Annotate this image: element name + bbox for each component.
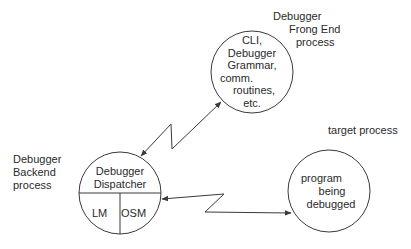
- frontend-line-comm: comm.: [212, 72, 292, 85]
- osm-label: OSM: [121, 207, 146, 220]
- frontend-label-line-1: Debugger: [273, 10, 353, 23]
- lm-label: LM: [92, 207, 107, 220]
- target-line-being: being: [299, 185, 363, 198]
- backend-target-connector: [162, 194, 291, 213]
- dispatcher-line-2: Dispatcher: [82, 178, 158, 191]
- dispatcher-text: Debugger Dispatcher: [82, 165, 158, 191]
- backend-label-line-3: process: [13, 179, 78, 192]
- frontend-line-cli: CLI,: [212, 34, 292, 47]
- backend-process-label: Debugger Backend process: [13, 153, 78, 192]
- backend-frontend-connector: [141, 102, 221, 156]
- frontend-line-etc: etc.: [212, 97, 292, 110]
- frontend-node-text: CLI, Debugger Grammar, comm. routines, e…: [212, 34, 292, 109]
- backend-label-line-2: Backend: [13, 166, 78, 179]
- frontend-line-debugger: Debugger: [212, 47, 292, 60]
- target-line-debugged: debugged: [299, 198, 363, 211]
- frontend-line-grammar: Grammar,: [212, 59, 292, 72]
- target-node-text: program being debugged: [299, 172, 363, 211]
- target-process-label: target process: [328, 124, 398, 137]
- dispatcher-line-1: Debugger: [82, 165, 158, 178]
- target-line-program: program: [299, 172, 363, 185]
- backend-label-line-1: Debugger: [13, 153, 78, 166]
- frontend-line-routines: routines,: [212, 84, 292, 97]
